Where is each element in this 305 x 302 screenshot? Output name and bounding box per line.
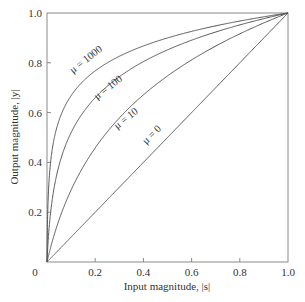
axis-ticks: 00.20.40.60.81.00.20.40.60.81.0 <box>28 7 295 278</box>
x-tick-label: 0.8 <box>233 266 247 278</box>
y-tick-label: 0.8 <box>28 57 42 69</box>
x-tick-label: 0.6 <box>185 266 199 278</box>
curves <box>47 13 288 262</box>
curve-label: μ = 1000 <box>68 43 105 75</box>
y-tick-label: 0.2 <box>28 206 42 218</box>
y-tick-label: 0.4 <box>28 156 42 168</box>
mu-law-chart: 00.20.40.60.81.00.20.40.60.81.0 μ = 1000… <box>0 0 305 302</box>
curve-label: μ = 100 <box>92 73 124 102</box>
x-tick-label: 0.2 <box>88 266 102 278</box>
y-tick-label: 1.0 <box>28 7 42 19</box>
x-tick-label: 0 <box>32 266 38 278</box>
curve-label: μ = 10 <box>112 106 140 131</box>
x-axis-label: Input magnitude, |s| <box>124 280 211 292</box>
x-tick-label: 1.0 <box>281 266 295 278</box>
curve-label: μ = 0 <box>140 123 163 146</box>
y-axis-label: Output magnitude, |y| <box>8 89 20 184</box>
y-tick-label: 0.6 <box>28 107 42 119</box>
x-tick-label: 0.4 <box>137 266 151 278</box>
